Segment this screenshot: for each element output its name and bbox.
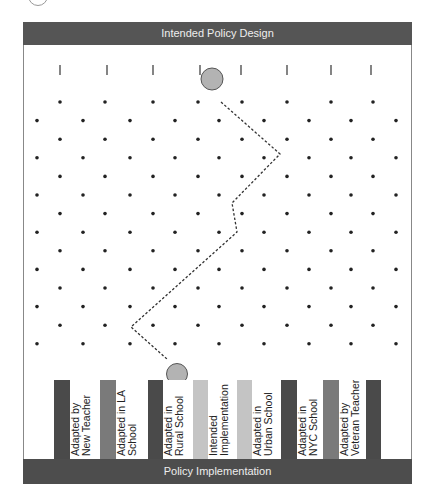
bin-label-3: Adapted in Rural School [163,380,193,458]
bin-divider-8 [366,380,381,460]
bin-divider-4 [193,380,208,460]
bin-label-7: Adapted by Veteran Teacher [339,380,369,458]
bin-label-4: Intended Implementation [208,380,238,458]
start-ball [201,68,223,90]
bin-divider-6 [281,380,297,460]
pegs [35,100,398,345]
bin-divider-5 [237,380,252,460]
bottom-footer: Policy Implementation [23,459,412,484]
bin-divider-3 [148,380,163,460]
bin-label-2: Adapted in LA School [116,380,146,458]
bin-label-1: Adapted by New Teacher [70,380,100,458]
bin-divider-1 [54,380,70,460]
bin-label-5: Adapted in Urban School [252,380,282,458]
bin-divider-2 [100,380,116,460]
bin-divider-7 [323,380,339,460]
